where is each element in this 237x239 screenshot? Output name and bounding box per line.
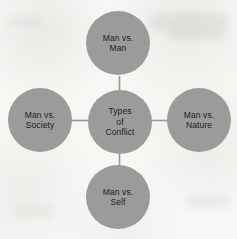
node-label-man-vs-society: Man vs. Society — [22, 110, 58, 131]
node-label-types-of-conflict: Types of Conflict — [102, 106, 137, 138]
node-man-vs-self: Man vs. Self — [86, 165, 150, 229]
node-label-man-vs-nature: Man vs. Nature — [181, 110, 217, 131]
node-man-vs-society: Man vs. Society — [8, 88, 72, 152]
conflict-types-diagram: Man vs. Man Man vs. Society Types of Con… — [0, 0, 237, 239]
node-label-man-vs-self: Man vs. Self — [100, 187, 136, 208]
node-man-vs-nature: Man vs. Nature — [167, 88, 231, 152]
node-label-man-vs-man: Man vs. Man — [100, 33, 136, 54]
node-types-of-conflict: Types of Conflict — [88, 90, 152, 154]
node-man-vs-man: Man vs. Man — [86, 11, 150, 75]
